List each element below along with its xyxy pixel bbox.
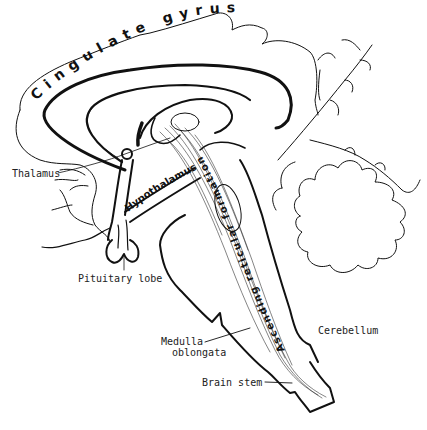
cerebellum-inner-fold	[273, 162, 295, 210]
label-brain-stem: Brain stem	[202, 377, 262, 388]
pituitary-stalk	[118, 220, 128, 250]
brain-diagram: Cingulate gyrus Hypothalamus Ascending r…	[0, 0, 427, 430]
lower-cortex-line	[42, 228, 110, 248]
label-medulla-line2: oblongata	[172, 347, 226, 358]
cingulate-gyrus-arc	[44, 65, 291, 170]
label-cerebellum: Cerebellum	[318, 325, 378, 336]
hypothalamus-band-upper	[108, 160, 122, 240]
label-hypothalamus: Hypothalamus	[123, 161, 199, 213]
pons-curve	[200, 142, 245, 150]
label-thalamus: Thalamus	[12, 168, 60, 179]
brain-illustration: Cingulate gyrus Hypothalamus Ascending r…	[0, 0, 427, 430]
label-medulla-line1: Medulla	[161, 336, 203, 347]
mammillary-body	[122, 149, 132, 159]
brainstem-leader	[265, 382, 292, 383]
fornix	[140, 99, 232, 138]
corpus-callosum	[87, 85, 250, 162]
pituitary-gland	[106, 240, 138, 263]
label-pituitary-lobe: Pituitary lobe	[78, 273, 162, 284]
brainstem-right	[240, 160, 318, 362]
occipital-branch	[310, 140, 420, 192]
